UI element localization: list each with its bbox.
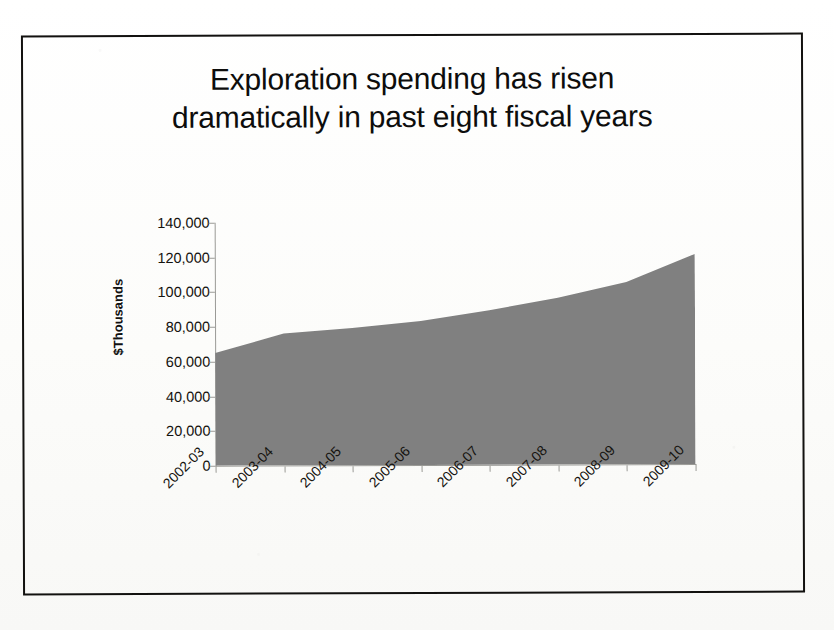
y-axis-tick-label: 80,000 [166, 319, 210, 335]
y-axis-tick-mark [209, 327, 215, 328]
y-axis-tick-mark [209, 223, 215, 224]
y-axis-tick-label: 40,000 [166, 388, 210, 404]
y-axis-tick-label: 140,000 [157, 215, 209, 231]
x-axis-tick-mark [627, 465, 628, 471]
plot-area [215, 221, 696, 466]
y-axis-tick-mark [209, 431, 215, 432]
x-axis-tick-mark [490, 466, 491, 472]
slide-content: Exploration spending has risen dramatica… [21, 33, 805, 596]
y-axis-tick-labels: 140,000120,000100,00080,00060,00040,0002… [131, 35, 211, 595]
area-series-exploration-spending [215, 221, 696, 466]
y-axis-tick-mark [209, 292, 215, 293]
y-axis-tick-label: 20,000 [166, 423, 210, 439]
y-axis-tick-mark [209, 362, 215, 363]
x-axis-tick-mark [696, 465, 697, 471]
y-axis-tick-mark [210, 466, 216, 467]
y-axis-title: $Thousands [110, 252, 125, 382]
x-axis-tick-mark [216, 467, 217, 473]
area-fill-path [215, 254, 696, 466]
x-axis-tick-mark [558, 465, 559, 471]
x-axis-tick-mark [284, 466, 285, 472]
chart-plot-wrapper: $Thousands 140,000120,000100,00080,00060… [21, 33, 805, 596]
y-axis-tick-mark [209, 257, 215, 258]
y-axis-tick-label: 120,000 [157, 249, 209, 265]
y-axis-tick-label: 60,000 [166, 354, 210, 370]
x-axis-tick-mark [353, 466, 354, 472]
x-axis-tick-mark [421, 466, 422, 472]
y-axis-tick-mark [209, 396, 215, 397]
y-axis-tick-label: 100,000 [157, 284, 209, 300]
